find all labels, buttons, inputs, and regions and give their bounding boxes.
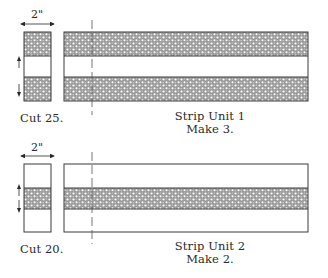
dimension-label-1: 2" xyxy=(31,8,43,21)
dimension-label-2: 2" xyxy=(31,141,43,154)
strip-unit-2-caption: Strip Unit 2 Make 2. xyxy=(150,240,270,266)
strip-unit-1-caption: Strip Unit 1 Make 3. xyxy=(150,110,270,136)
cut-label-2: Cut 20. xyxy=(20,243,63,256)
strip-units-diagram xyxy=(0,0,328,278)
cut-label-1: Cut 25. xyxy=(20,112,63,125)
strip-unit-2 xyxy=(17,152,308,244)
strip-unit-1 xyxy=(17,20,308,115)
strip-unit-1-subtitle: Make 3. xyxy=(150,123,270,136)
press-direction-arrows xyxy=(17,56,21,97)
strip-set-1 xyxy=(64,32,308,101)
strip-unit-2-subtitle: Make 2. xyxy=(150,253,270,266)
strip-set-2 xyxy=(64,164,308,232)
cut-segment-2 xyxy=(24,164,51,232)
cut-segment-1 xyxy=(24,32,51,101)
press-direction-arrows xyxy=(17,184,21,213)
